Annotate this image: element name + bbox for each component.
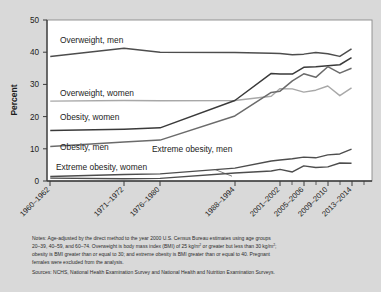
notes-line-2-part-c: ; (275, 243, 276, 249)
y-tick-label-30: 30 (30, 80, 40, 89)
notes-line-4: females were excluded from the analysis. (32, 259, 124, 265)
notes-line-2-part-b: or greater but less than 30 kg/m (201, 243, 273, 249)
notes-line-2: 20–39, 40–59, and 60–74. Overweight is b… (32, 243, 276, 249)
chart-figure: Percent 0 10 20 30 40 50 (0, 0, 381, 292)
y-axis-title: Percent (9, 84, 19, 115)
series-label-overweight-men: Overweight, men (60, 35, 124, 45)
y-tick-label-10: 10 (30, 145, 40, 154)
notes-line-1: Notes: Age-adjusted by the direct method… (32, 235, 271, 241)
notes-line-2-part-a: 20–39, 40–59, and 60–74. Overweight is b… (32, 243, 199, 249)
series-label-extreme-obesity-women: Extreme obesity, women (56, 162, 147, 172)
notes-sources-line: Sources: NCHS, National Health Examinati… (32, 269, 275, 275)
y-tick-label-0: 0 (34, 177, 39, 186)
y-tick-label-40: 40 (30, 48, 40, 57)
series-label-extreme-obesity-men: Extreme obesity, men (152, 144, 233, 154)
obesity-trends-line-chart: Percent 0 10 20 30 40 50 (0, 0, 381, 292)
series-label-overweight-women: Overweight, women (60, 88, 134, 98)
series-label-obesity-men: Obesity, men (60, 142, 109, 152)
y-tick-label-20: 20 (30, 113, 40, 122)
series-label-obesity-women: Obesity, women (60, 112, 120, 122)
notes-line-3: obesity is BMI greater than or equal to … (32, 251, 271, 257)
y-tick-label-50: 50 (30, 16, 40, 25)
